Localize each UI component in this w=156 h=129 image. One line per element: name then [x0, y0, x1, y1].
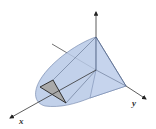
3d-solid-diagram: x y: [0, 0, 156, 129]
y-axis-label: y: [131, 98, 137, 108]
x-axis-label: x: [18, 116, 24, 126]
y-axis-line: [126, 86, 146, 99]
